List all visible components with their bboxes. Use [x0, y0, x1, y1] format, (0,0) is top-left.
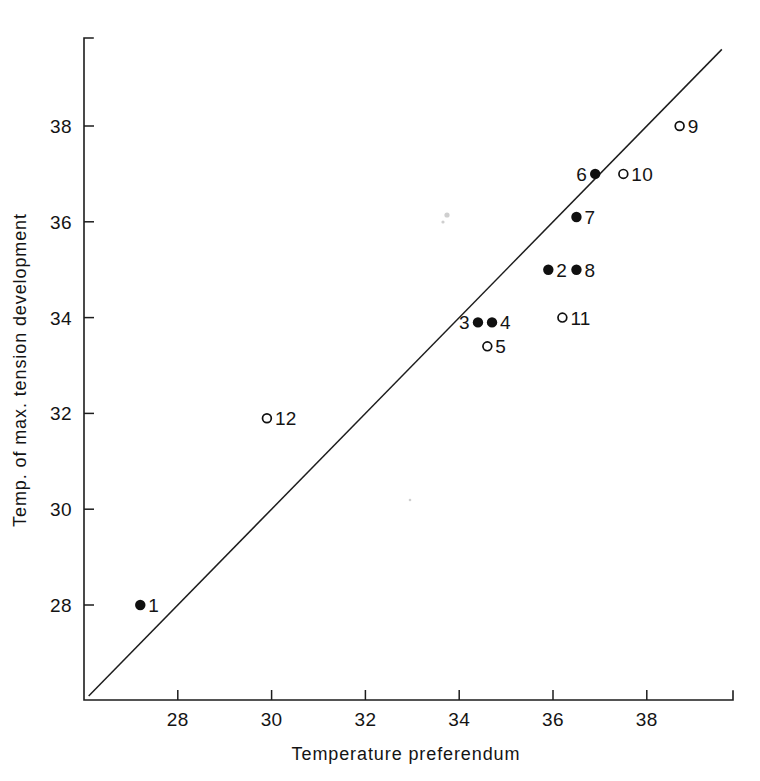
open-circle-marker	[558, 313, 567, 322]
closed-circle-marker	[487, 317, 497, 327]
data-point-label-1: 1	[148, 595, 159, 616]
y-tick-label-38: 38	[50, 116, 72, 137]
data-point-label-4: 4	[500, 312, 511, 333]
x-tick-label-36: 36	[542, 709, 564, 730]
x-tick-label-28: 28	[167, 709, 189, 730]
closed-circle-marker	[571, 265, 581, 275]
closed-circle-marker	[543, 265, 553, 275]
data-point-label-9: 9	[688, 116, 699, 137]
plot-background	[0, 0, 760, 781]
y-tick-label-34: 34	[50, 308, 72, 329]
data-point-label-7: 7	[584, 207, 595, 228]
scatter-plot-figure: 283032343638283032343638 123456789101112…	[0, 0, 760, 781]
data-point-label-12: 12	[275, 408, 297, 429]
x-tick-label-34: 34	[448, 709, 470, 730]
closed-circle-marker	[473, 317, 483, 327]
open-circle-marker	[483, 342, 492, 351]
data-point-label-2: 2	[556, 260, 567, 281]
data-point-label-3: 3	[459, 312, 470, 333]
y-tick-label-30: 30	[50, 499, 72, 520]
data-point-label-10: 10	[631, 164, 653, 185]
closed-circle-marker	[590, 169, 600, 179]
x-tick-label-32: 32	[354, 709, 376, 730]
y-tick-label-32: 32	[50, 403, 72, 424]
data-point-label-11: 11	[570, 308, 590, 329]
x-tick-label-38: 38	[636, 709, 658, 730]
open-circle-marker	[619, 170, 628, 179]
open-circle-marker	[675, 122, 684, 131]
y-tick-label-28: 28	[50, 595, 72, 616]
closed-circle-marker	[571, 212, 581, 222]
y-axis-title: Temp. of max. tension development	[10, 213, 30, 527]
x-tick-label-30: 30	[261, 709, 283, 730]
data-point-label-5: 5	[495, 336, 506, 357]
data-point-label-6: 6	[576, 164, 587, 185]
data-point-label-8: 8	[584, 260, 595, 281]
open-circle-marker	[263, 414, 272, 423]
closed-circle-marker	[135, 600, 145, 610]
y-tick-label-36: 36	[50, 212, 72, 233]
plot-canvas: 283032343638283032343638 123456789101112…	[0, 0, 760, 781]
x-axis-title: Temperature preferendum	[292, 744, 521, 764]
